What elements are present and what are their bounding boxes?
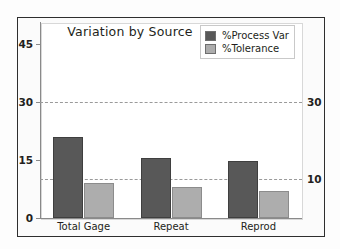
bar-repeat-series-0 xyxy=(141,158,171,218)
bar-total-gage-series-1 xyxy=(84,183,114,218)
bar-reprod-series-0 xyxy=(228,161,258,218)
category-label-reprod: Reprod xyxy=(198,221,318,232)
chart-page: Variation by Source %Process Var %Tolera… xyxy=(0,0,340,249)
right-tick-label-10: 10 xyxy=(307,174,322,184)
bar-reprod-series-1 xyxy=(259,191,289,218)
bars-layer xyxy=(40,22,302,218)
bar-repeat-series-1 xyxy=(172,187,202,218)
bar-total-gage-series-0 xyxy=(53,137,83,218)
x-axis-line xyxy=(40,218,302,219)
y-tick-label-45: 45 xyxy=(18,39,33,49)
y-tick-mark-0 xyxy=(36,218,40,219)
y-tick-label-15: 15 xyxy=(18,155,33,165)
right-tick-label-30: 30 xyxy=(307,97,322,107)
y-tick-label-30: 30 xyxy=(18,97,33,107)
